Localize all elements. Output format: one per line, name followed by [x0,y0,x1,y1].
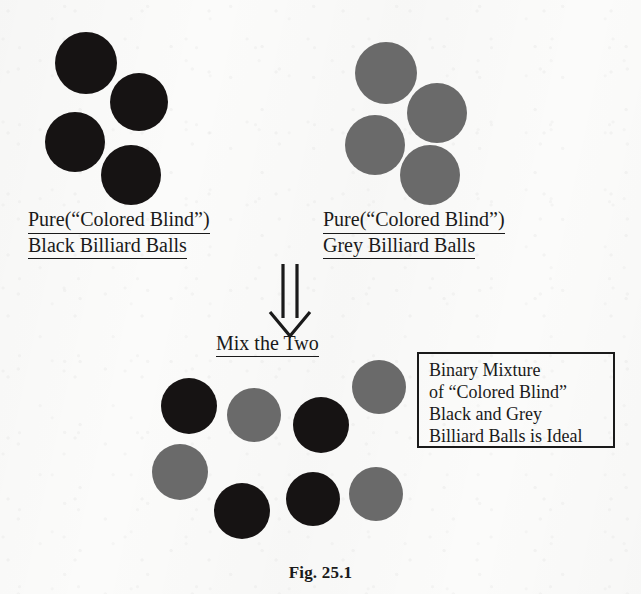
note-box-line-4: Billiard Balls is Ideal [429,425,604,447]
mixture-grey-ball-8 [349,467,403,521]
mixture-black-ball-6 [214,483,270,539]
note-box-line-3: Black and Grey [429,403,604,425]
note-box-line-1: Binary Mixture [429,359,604,381]
double-line-down-arrow-icon [262,262,318,338]
mixture-grey-ball-4 [352,360,406,414]
pure-grey-caption: Pure(“Colored Blind”) Grey Billiard Ball… [323,208,505,259]
note-box-line-2: of “Colored Blind” [429,381,604,403]
pure-black-black-ball-4 [101,145,161,205]
pure-black-black-ball-3 [45,112,105,172]
pure-grey-grey-ball-1 [355,42,417,104]
mixture-black-ball-1 [161,378,217,434]
pure-grey-grey-ball-2 [407,83,467,143]
pure-grey-caption-line-2: Grey Billiard Balls [323,234,475,260]
pure-grey-grey-ball-3 [345,115,405,175]
mix-the-two-text: Mix the Two [216,332,319,357]
figure-25-1: Pure(“Colored Blind”) Black Billiard Bal… [0,0,641,594]
mixture-black-ball-3 [293,397,349,453]
binary-mixture-note-box: Binary Mixture of “Colored Blind” Black … [417,352,615,448]
pure-black-caption: Pure(“Colored Blind”) Black Billiard Bal… [28,208,210,259]
pure-black-black-ball-1 [55,32,117,94]
mixture-grey-ball-2 [227,388,281,442]
pure-black-caption-line-2: Black Billiard Balls [28,234,187,260]
pure-grey-grey-ball-4 [400,145,460,205]
pure-black-black-ball-2 [110,73,168,131]
pure-grey-caption-line-1: Pure(“Colored Blind”) [323,208,505,234]
mixture-grey-ball-5 [152,444,208,500]
mix-the-two-label: Mix the Two [216,332,319,357]
pure-black-caption-line-1: Pure(“Colored Blind”) [28,208,210,234]
mixture-black-ball-7 [286,472,340,526]
figure-caption: Fig. 25.1 [0,563,641,583]
